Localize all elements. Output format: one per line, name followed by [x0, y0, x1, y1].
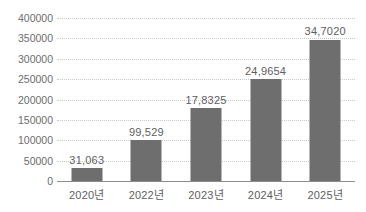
bar-group: 24,9654: [236, 18, 296, 181]
y-tick-label: 250000: [1, 73, 53, 85]
bar[interactable]: [71, 168, 102, 181]
y-tick-label: 50000: [1, 155, 53, 167]
x-tick-label: 2022년: [129, 186, 164, 202]
bar-value-label: 24,9654: [245, 65, 286, 77]
bar-value-label: 17,8325: [185, 94, 226, 106]
x-axis: 2020년 2022년 2023년 2024년 2025년: [57, 186, 355, 206]
y-tick-label: 100000: [1, 134, 53, 146]
bar[interactable]: [310, 40, 341, 181]
y-tick-label: 300000: [1, 53, 53, 65]
y-tick-label: 200000: [1, 94, 53, 106]
x-axis-line: [57, 181, 355, 182]
bar-group: 31,063: [57, 18, 117, 181]
bar-value-label: 99,529: [129, 126, 164, 138]
x-tick-label: 2020년: [69, 186, 104, 202]
bar[interactable]: [250, 79, 281, 181]
x-tick-label: 2023년: [188, 186, 223, 202]
y-tick-label: 350000: [1, 32, 53, 44]
x-tick-label: 2025년: [307, 186, 342, 202]
bar-group: 17,8325: [176, 18, 236, 181]
chart-screenshot: 400000 350000 300000 250000 200000 15000…: [0, 0, 366, 212]
bar-value-label: 31,063: [69, 154, 104, 166]
bar[interactable]: [190, 108, 221, 181]
plot-area: 31,063 99,529 17,8325 24,9654 34,7020: [57, 18, 355, 181]
bar-value-label: 34,7020: [305, 25, 346, 37]
bar-group: 99,529: [117, 18, 177, 181]
x-tick-label: 2024년: [248, 186, 283, 202]
bar-group: 34,7020: [295, 18, 355, 181]
y-tick-label: 400000: [1, 12, 53, 24]
page-title: [6, 0, 186, 3]
y-axis: 400000 350000 300000 250000 200000 15000…: [0, 18, 53, 181]
y-tick-label: 0: [1, 175, 53, 187]
y-tick-label: 150000: [1, 114, 53, 126]
bar[interactable]: [131, 140, 162, 181]
